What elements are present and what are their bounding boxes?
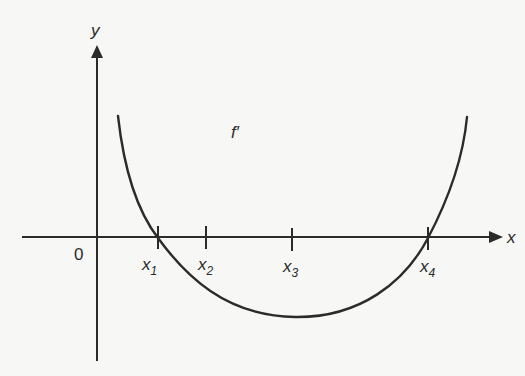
y-axis-arrow-icon [91,45,103,58]
origin-label: 0 [74,246,83,263]
tick-label-x1-name: x [142,255,151,274]
x-axis-label: x [507,229,516,246]
tick-label-x3-sub: 3 [292,266,299,280]
function-label: f′ [231,124,239,141]
tick-label-x4-sub: 4 [429,266,436,280]
derivative-graph-figure: y x 0 f′ x1 x2 x3 x4 [0,0,525,376]
tick-label-x1-sub: 1 [151,264,158,278]
tick-label-x2-sub: 2 [207,264,214,278]
tick-label-x3: x3 [283,258,298,275]
y-axis-label: y [91,22,100,39]
tick-label-x4-name: x [420,257,429,276]
tick-label-x2: x2 [198,256,213,273]
graph-canvas [0,0,525,376]
tick-label-x4: x4 [420,258,435,275]
tick-label-x3-name: x [283,257,292,276]
tick-label-x1: x1 [142,256,157,273]
x-axis-arrow-icon [489,231,503,243]
tick-label-x2-name: x [198,255,207,274]
f-prime-curve [118,116,467,317]
